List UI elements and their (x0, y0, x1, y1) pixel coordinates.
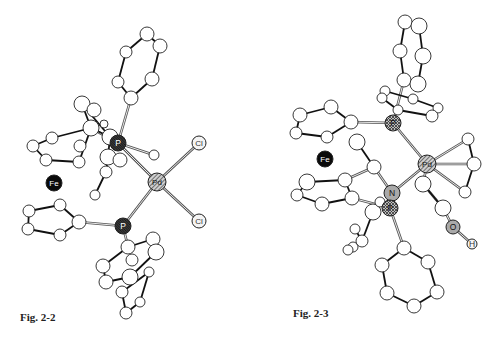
carbon-atom (135, 297, 145, 307)
atom-label: Cl (195, 139, 203, 148)
p-atom: P (385, 115, 401, 131)
atom-label: Fe (49, 179, 59, 188)
atom-label: Cl (195, 217, 203, 226)
atom-label: N (389, 188, 395, 198)
molecule-fig-2-3: PPdNPOHFe (290, 15, 481, 313)
n-atom: N (384, 185, 400, 201)
atom-label: H (469, 239, 475, 249)
p-atom: P (115, 218, 131, 234)
o-atom: O (446, 220, 460, 234)
carbon-atom (120, 307, 132, 319)
carbon-atom (356, 235, 368, 247)
carbon-atom (100, 166, 112, 178)
carbon-atom (54, 199, 66, 211)
atom-label: P (387, 203, 393, 213)
carbon-atom (72, 215, 86, 229)
p-atom: P (382, 200, 398, 216)
carbon-atom (46, 132, 58, 144)
atom-label: O (450, 222, 457, 232)
carbon-atom (23, 205, 35, 217)
diagram-canvas: PPPdClClFe PPdNPOHFe (0, 0, 496, 341)
figure-caption-2-2: Fig. 2-2 (20, 311, 55, 323)
carbon-atom (397, 241, 411, 255)
carbon-atom (87, 103, 101, 117)
carbon-atom (344, 115, 358, 129)
carbon-atom (407, 299, 421, 313)
atom-label: Pd (152, 178, 162, 187)
cl-atom: Cl (192, 214, 206, 228)
fe-atom: Fe (317, 151, 333, 167)
p-atom: P (110, 135, 126, 151)
carbon-atom (100, 120, 108, 128)
carbon-atom (377, 93, 387, 103)
carbon-atom (122, 269, 138, 285)
carbon-atom (345, 191, 359, 205)
cl-atom: Cl (192, 136, 206, 150)
atom-label: Fe (320, 155, 330, 164)
carbon-atom (343, 245, 353, 255)
figure-caption-2-3: Fig. 2-3 (293, 307, 328, 319)
carbon-atom (22, 223, 34, 235)
carbon-atom (121, 240, 135, 254)
carbon-atom (324, 100, 338, 114)
carbon-atom (393, 44, 407, 58)
carbon-atom (321, 131, 333, 143)
carbon-atom (315, 197, 329, 211)
carbon-atom (90, 190, 100, 200)
carbon-atom (375, 258, 389, 272)
atom-label: P (120, 221, 126, 231)
carbon-atom (426, 110, 438, 122)
carbon-atom (124, 91, 138, 105)
fe-atom: Fe (46, 175, 62, 191)
carbon-atom (116, 286, 128, 298)
carbon-atom (73, 156, 85, 168)
carbon-atom (350, 224, 360, 234)
carbon-atom (299, 174, 315, 190)
carbon-atom (54, 229, 66, 241)
carbon-atom (397, 73, 411, 87)
carbon-atom (393, 105, 403, 115)
carbon-atom (435, 200, 451, 216)
atom-label: Pd (422, 160, 432, 169)
carbon-atom (415, 48, 431, 64)
carbon-atom (99, 275, 113, 289)
carbon-atom (120, 46, 132, 58)
carbon-atom (398, 15, 412, 29)
carbon-atom (149, 150, 159, 160)
carbon-atom (380, 286, 394, 300)
carbon-atom (421, 255, 435, 269)
carbon-atom (126, 254, 138, 266)
carbon-atom (96, 259, 110, 273)
carbon-atom (83, 120, 99, 136)
atom-label: P (115, 138, 121, 148)
carbon-atom (459, 186, 471, 198)
carbon-atom (112, 76, 124, 88)
carbon-atom (430, 285, 444, 299)
carbon-atom (148, 244, 164, 260)
carbon-atom (338, 173, 352, 187)
carbon-atom (40, 154, 52, 166)
carbon-atom (293, 108, 307, 122)
atom-label: P (390, 118, 396, 128)
carbon-atom (140, 27, 154, 41)
carbon-atom (408, 94, 418, 104)
carbon-atom (291, 189, 303, 201)
carbon-atom (145, 72, 159, 86)
carbon-atom (415, 176, 431, 192)
carbon-atom (74, 140, 86, 152)
carbon-atom (467, 157, 481, 171)
carbon-atom (411, 18, 427, 34)
carbon-atom (113, 153, 127, 167)
h-atom: H (467, 239, 477, 249)
carbon-atom (144, 267, 154, 277)
pd-atom: Pd (148, 173, 166, 191)
carbon-atom (462, 133, 474, 145)
carbon-atom (153, 39, 167, 53)
carbon-atom (290, 127, 302, 139)
pd-atom: Pd (418, 155, 436, 173)
carbon-atom (349, 134, 365, 150)
carbon-atom (410, 76, 426, 92)
carbon-atom (367, 160, 381, 174)
carbon-atom (27, 140, 39, 152)
molecule-fig-2-2: PPPdClClFe (22, 27, 206, 319)
